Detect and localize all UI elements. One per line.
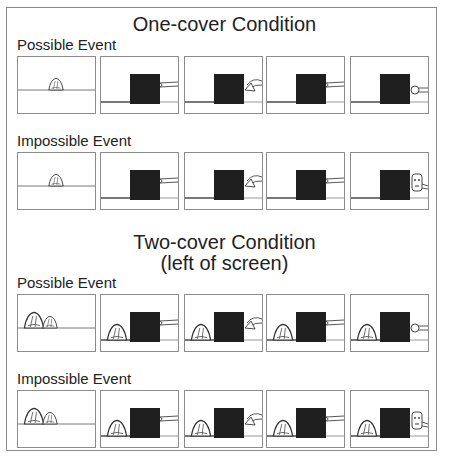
event-panel-step-3	[184, 294, 263, 352]
panel-drawing	[101, 295, 178, 351]
panel-drawing	[351, 153, 428, 209]
event-panel-step-1	[17, 152, 96, 210]
event-panel-step-1	[17, 294, 96, 352]
event-panel-step-2	[100, 390, 179, 448]
section-subtitle-two-cover: (left of screen)	[0, 253, 449, 274]
row-label-one-cover-possible: Possible Event	[17, 36, 116, 53]
panel-row-one-cover-impossible	[17, 152, 430, 210]
event-panel-step-2	[100, 56, 179, 114]
row-label-two-cover-impossible: Impossible Event	[17, 370, 131, 387]
panel-drawing	[267, 391, 344, 447]
panel-drawing	[185, 153, 262, 209]
section-title-one-cover: One-cover Condition	[0, 14, 449, 35]
row-label-one-cover-impossible: Impossible Event	[17, 132, 131, 149]
panel-drawing	[185, 391, 262, 447]
panel-drawing	[351, 295, 428, 351]
panel-drawing	[267, 295, 344, 351]
event-panel-step-5	[350, 294, 429, 352]
panel-drawing	[351, 391, 428, 447]
panel-drawing	[185, 295, 262, 351]
event-panel-step-5	[350, 152, 429, 210]
event-panel-step-4	[266, 152, 345, 210]
panel-drawing	[101, 153, 178, 209]
event-panel-step-1	[17, 390, 96, 448]
panel-row-two-cover-possible	[17, 294, 430, 352]
panel-drawing	[101, 391, 178, 447]
panel-drawing	[18, 57, 95, 113]
section-title-two-cover: Two-cover Condition	[0, 232, 449, 253]
panel-drawing	[18, 295, 95, 351]
panel-row-one-cover-possible	[17, 56, 430, 114]
panel-drawing	[18, 153, 95, 209]
event-panel-step-2	[100, 152, 179, 210]
panel-drawing	[101, 57, 178, 113]
panel-row-two-cover-impossible	[17, 390, 430, 448]
panel-drawing	[18, 391, 95, 447]
event-panel-step-5	[350, 56, 429, 114]
event-panel-step-1	[17, 56, 96, 114]
panel-drawing	[267, 57, 344, 113]
event-panel-step-3	[184, 152, 263, 210]
panel-drawing	[351, 57, 428, 113]
row-label-two-cover-possible: Possible Event	[17, 274, 116, 291]
event-panel-step-3	[184, 390, 263, 448]
panel-drawing	[185, 57, 262, 113]
event-panel-step-2	[100, 294, 179, 352]
event-panel-step-4	[266, 390, 345, 448]
event-panel-step-5	[350, 390, 429, 448]
event-panel-step-3	[184, 56, 263, 114]
panel-drawing	[267, 153, 344, 209]
event-panel-step-4	[266, 56, 345, 114]
event-panel-step-4	[266, 294, 345, 352]
